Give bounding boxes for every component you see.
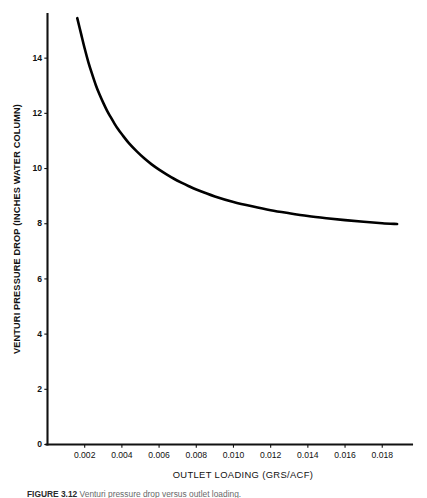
- x-axis-tick-label: 0.016: [334, 450, 356, 460]
- x-axis-tick-label: 0.002: [74, 450, 96, 460]
- y-axis-tick-label: 14: [32, 53, 42, 63]
- x-axis-title: OUTLET LOADING (GRS/ACF): [173, 469, 314, 480]
- figure-caption-number: FIGURE 3.12: [27, 489, 77, 498]
- y-axis-title: VENTURI PRESSURE DROP (INCHES WATER COLU…: [12, 104, 22, 354]
- x-axis-tick-label: 0.006: [148, 450, 170, 460]
- y-axis-tick-labels: 02468101214: [32, 53, 42, 449]
- y-axis-tick-label: 10: [32, 163, 42, 173]
- figure-container: 02468101214 0.0020.0040.0060.0080.0100.0…: [0, 0, 427, 498]
- x-axis-tick-label: 0.010: [223, 450, 245, 460]
- y-axis-tick-label: 6: [37, 274, 42, 284]
- x-axis-tick-label: 0.018: [371, 450, 393, 460]
- x-axis-tick-label: 0.008: [186, 450, 208, 460]
- y-axis-tick-label: 2: [37, 384, 42, 394]
- x-axis-tick-label: 0.004: [111, 450, 133, 460]
- x-axis-tick-label: 0.012: [260, 450, 282, 460]
- chart-canvas: 02468101214 0.0020.0040.0060.0080.0100.0…: [0, 0, 427, 498]
- data-series-venturi-pressure-drop: [77, 18, 397, 224]
- x-axis-tick-label: 0.014: [297, 450, 319, 460]
- figure-caption: FIGURE 3.12 Venturi pressure drop versus…: [27, 489, 419, 498]
- y-axis-tick-label: 4: [37, 329, 42, 339]
- figure-caption-text: Venturi pressure drop versus outlet load…: [80, 489, 242, 498]
- x-axis-tick-labels: 0.0020.0040.0060.0080.0100.0120.0140.016…: [74, 450, 393, 460]
- y-axis-tick-label: 12: [32, 108, 42, 118]
- y-axis-tick-label: 0: [37, 439, 42, 449]
- y-axis-tick-label: 8: [37, 218, 42, 228]
